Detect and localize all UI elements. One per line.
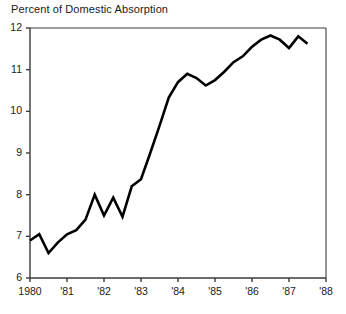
y-tick-label: 10: [0, 104, 22, 116]
y-tick-label: 11: [0, 63, 22, 75]
x-tick-label: '86: [245, 285, 259, 297]
x-tick-label: '88: [319, 285, 333, 297]
y-tick-label: 9: [0, 146, 22, 158]
x-tick-label: 1980: [18, 285, 41, 297]
x-tick-label: '85: [208, 285, 222, 297]
x-tick-label: '82: [97, 285, 111, 297]
x-tick-label: '87: [282, 285, 296, 297]
y-tick-label: 12: [0, 21, 22, 33]
x-tick-label: '83: [134, 285, 148, 297]
axis-ticks: [26, 28, 326, 282]
x-tick-label: '84: [171, 285, 185, 297]
x-tick-label: '81: [60, 285, 74, 297]
y-tick-label: 6: [0, 271, 22, 283]
y-tick-label: 7: [0, 229, 22, 241]
series-line: [30, 36, 308, 254]
line-chart-plot: [0, 0, 346, 314]
y-tick-label: 8: [0, 188, 22, 200]
chart-root: Percent of Domestic Absorption 121110987…: [0, 0, 346, 314]
axes: [30, 28, 326, 278]
data-series: [30, 36, 308, 254]
